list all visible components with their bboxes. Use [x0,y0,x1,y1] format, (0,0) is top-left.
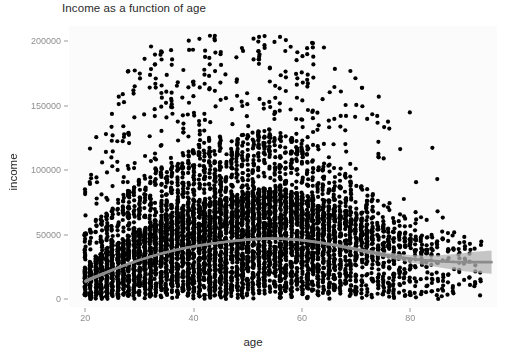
x-axis-title: age [0,336,506,348]
y-tick-mark [64,234,68,235]
x-tick-label: 80 [405,313,415,323]
x-tick-mark [410,308,411,312]
x-tick-mark [301,308,302,312]
chart-container: Income as a function of age 050000100000… [0,0,506,361]
plot-panel [69,26,497,307]
y-tick-label: 50000 [36,230,61,240]
y-tick-mark [64,170,68,171]
chart-title: Income as a function of age [62,2,206,14]
y-tick-label: 150000 [31,101,61,111]
x-tick-label: 60 [297,313,307,323]
y-tick-label: 0 [56,294,61,304]
y-tick-label: 200000 [31,36,61,46]
y-tick-mark [64,105,68,106]
x-tick-mark [85,308,86,312]
x-tick-mark [193,308,194,312]
x-tick-label: 20 [80,313,90,323]
x-tick-label: 40 [189,313,199,323]
y-tick-label: 100000 [31,165,61,175]
y-tick-mark [64,299,68,300]
y-tick-mark [64,41,68,42]
y-axis-title: income [7,112,19,232]
loess-smooth-line [69,26,497,307]
